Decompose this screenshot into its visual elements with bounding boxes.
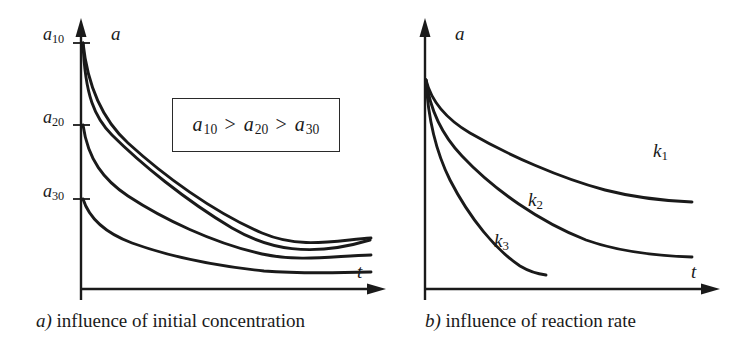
curve-a30	[83, 199, 371, 273]
y-axis-label-b: a	[455, 24, 465, 43]
x-axis-label-a: t	[357, 262, 362, 281]
caption-a-text: influence of initial concentration	[52, 310, 305, 331]
legend-box-initial-concentration: a10 > a20 > a30	[172, 98, 340, 152]
caption-b-enumerator: b)	[425, 310, 441, 331]
caption-panel-b: b) influence of reaction rate	[425, 310, 636, 332]
y-axis-label-a: a	[111, 24, 121, 43]
legend-a-text: a10 > a20 > a30	[193, 113, 320, 138]
x-axis-b	[425, 284, 720, 295]
y-tick-label-a20: a20	[43, 108, 64, 128]
caption-b-text: influence of reaction rate	[441, 310, 636, 331]
caption-a-enumerator: a)	[36, 310, 52, 331]
y-tick-label-a30: a30	[43, 182, 64, 202]
curve-k2	[426, 80, 692, 257]
figure-container: a t a10 a20 a30 a10 > a20 > a30	[0, 0, 734, 361]
curve-label-k2: k2	[528, 190, 543, 212]
y-tick-label-a10: a10	[43, 25, 64, 45]
plot-panel-a: a t a10 a20 a30 a10 > a20 > a30	[0, 0, 390, 300]
curve-label-k3: k3	[494, 231, 509, 253]
curve-label-k1: k1	[653, 141, 668, 163]
y-axis-b	[420, 18, 431, 300]
plot-b-graphics	[390, 0, 734, 300]
plot-panel-b: a t k1 k2 k3 k1< k2< k3	[390, 0, 734, 300]
x-axis-a	[81, 284, 386, 295]
caption-panel-a: a) influence of initial concentration	[36, 310, 305, 332]
x-axis-label-b: t	[691, 262, 696, 281]
